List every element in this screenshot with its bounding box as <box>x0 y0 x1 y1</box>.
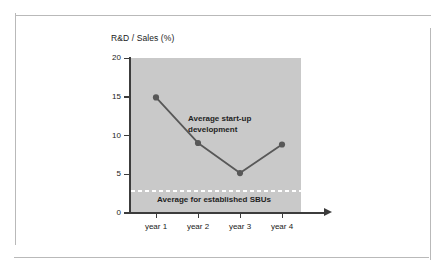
series-markers <box>153 94 285 176</box>
series-plot <box>0 0 444 273</box>
series-polyline <box>156 97 282 173</box>
data-point-year-3 <box>237 170 243 176</box>
annotation-series-label: Average start-up development <box>188 113 251 135</box>
data-point-year-1 <box>153 94 159 100</box>
data-point-year-2 <box>195 140 201 146</box>
line-chart: R&D / Sales (%) 20 15 10 5 0 year 1 year… <box>0 0 444 273</box>
annotation-benchmark-label: Average for established SBUs <box>157 194 271 205</box>
chart-page: R&D / Sales (%) 20 15 10 5 0 year 1 year… <box>0 0 444 273</box>
data-point-year-4 <box>279 141 285 147</box>
